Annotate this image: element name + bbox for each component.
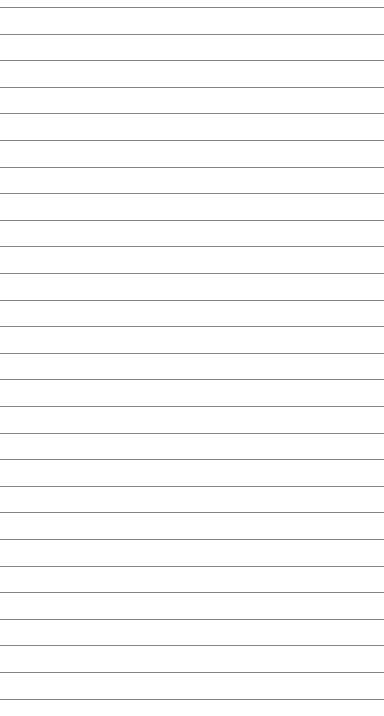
ruled-line	[0, 433, 384, 434]
ruled-line	[0, 220, 384, 221]
ruled-line	[0, 539, 384, 540]
ruled-line	[0, 645, 384, 646]
ruled-line	[0, 619, 384, 620]
ruled-line	[0, 379, 384, 380]
ruled-line	[0, 246, 384, 247]
ruled-line	[0, 34, 384, 35]
ruled-line	[0, 672, 384, 673]
ruled-line	[0, 459, 384, 460]
ruled-line	[0, 87, 384, 88]
ruled-line	[0, 60, 384, 61]
ruled-line	[0, 273, 384, 274]
ruled-line	[0, 566, 384, 567]
ruled-line	[0, 193, 384, 194]
ruled-line	[0, 406, 384, 407]
ruled-line	[0, 512, 384, 513]
ruled-line	[0, 7, 384, 8]
ruled-line	[0, 167, 384, 168]
ruled-line	[0, 699, 384, 700]
ruled-line	[0, 113, 384, 114]
ruled-line	[0, 486, 384, 487]
ruled-line	[0, 326, 384, 327]
ruled-line	[0, 300, 384, 301]
ruled-line	[0, 353, 384, 354]
ruled-line	[0, 592, 384, 593]
ruled-line	[0, 140, 384, 141]
